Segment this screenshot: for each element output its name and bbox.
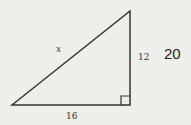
right-angle-marker bbox=[121, 96, 130, 105]
answer-value: 20 bbox=[164, 45, 181, 62]
triangle-figure bbox=[0, 0, 191, 125]
right-triangle bbox=[12, 11, 130, 105]
hypotenuse-label: x bbox=[56, 44, 61, 54]
horizontal-leg-label: 16 bbox=[66, 111, 77, 121]
vertical-leg-label: 12 bbox=[138, 52, 149, 62]
